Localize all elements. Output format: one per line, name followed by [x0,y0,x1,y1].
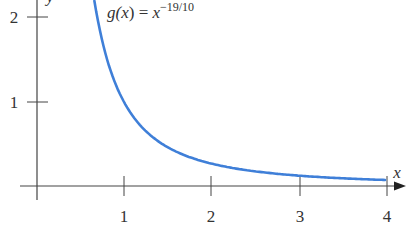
formula-exponent: −19/10 [160,0,194,14]
formula-name: g( [107,3,121,22]
y-axis-label: y [44,0,54,6]
x-tick-label: 3 [296,207,305,226]
function-curve [94,1,385,180]
formula-base: x [152,3,160,22]
y-tick-label: 1 [10,93,19,112]
formula-equals: ) = [129,3,153,22]
formula-arg: x [121,3,129,22]
x-tick-label: 2 [207,207,216,226]
chart-plot-area: 1 2 3 4 2 1 x y [0,0,416,244]
function-label: g(x) = x−19/10 [107,0,194,23]
x-axis-label: x [392,163,401,182]
y-tick-label: 2 [10,8,19,27]
x-tick-label: 4 [383,207,392,226]
x-axis-arrow-icon [394,182,406,191]
x-tick-label: 1 [120,207,129,226]
